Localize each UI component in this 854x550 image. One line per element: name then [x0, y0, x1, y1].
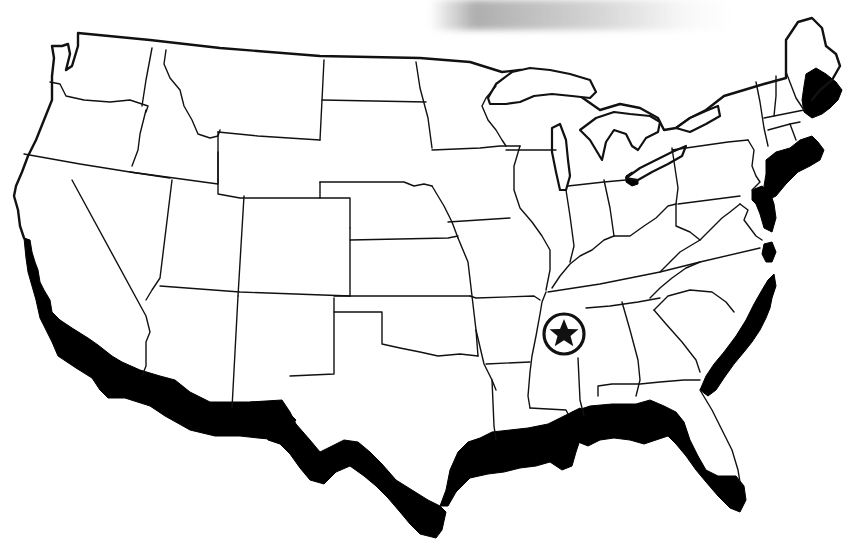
national-border [14, 18, 840, 238]
coast-northeast [764, 136, 824, 200]
star-circle-marker-icon [544, 314, 584, 354]
state-borders [24, 48, 804, 482]
lake-huron [580, 112, 660, 160]
coast-louisiana [440, 408, 590, 506]
lake-michigan [552, 124, 570, 190]
lake-erie [626, 146, 686, 180]
coast-new-england [802, 68, 842, 118]
coastal-highlight [24, 68, 842, 538]
lake-superior [488, 68, 596, 104]
coast-texas [250, 400, 446, 538]
lake-ontario [676, 106, 720, 132]
coast-florida-gulf [572, 400, 746, 512]
us-map [0, 0, 854, 550]
great-lakes [488, 68, 720, 190]
coast-virginia [762, 242, 776, 262]
